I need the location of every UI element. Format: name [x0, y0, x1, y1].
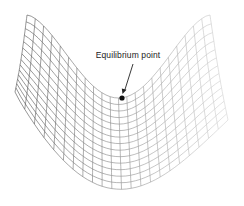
pointer-arrow — [125, 64, 134, 91]
arrow-head-icon — [122, 89, 127, 95]
surface-mesh — [15, 15, 228, 189]
equilibrium-point-label: Equilibrium point — [90, 50, 166, 60]
saddle-surface-diagram — [0, 0, 244, 206]
equilibrium-point-marker — [119, 95, 124, 100]
mesh-grid-lines — [15, 15, 228, 189]
